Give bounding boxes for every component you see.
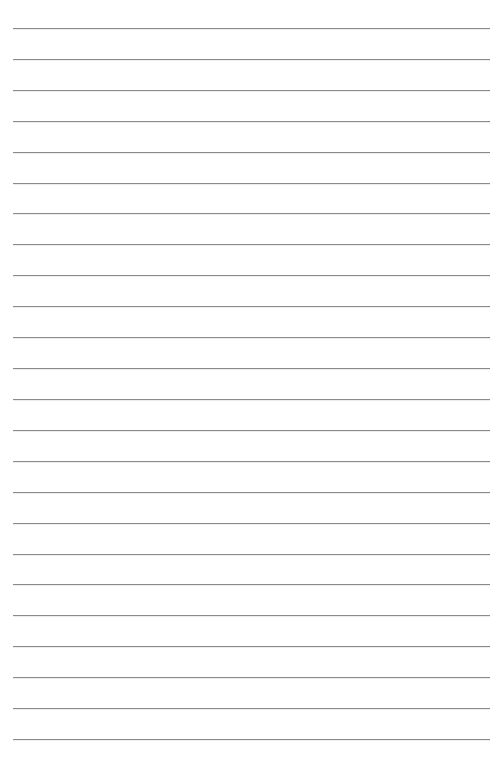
- lined-paper-page: [0, 0, 496, 766]
- ruled-line: [13, 337, 490, 338]
- ruled-line: [13, 121, 490, 122]
- ruled-line: [13, 554, 490, 555]
- ruled-line: [13, 615, 490, 616]
- ruled-line: [13, 152, 490, 153]
- ruled-line: [13, 183, 490, 184]
- ruled-line: [13, 461, 490, 462]
- ruled-line: [13, 59, 490, 60]
- ruled-line: [13, 244, 490, 245]
- ruled-line: [13, 430, 490, 431]
- ruled-line: [13, 492, 490, 493]
- ruled-line: [13, 213, 490, 214]
- ruled-line: [13, 523, 490, 524]
- ruled-line: [13, 584, 490, 585]
- ruled-line: [13, 28, 490, 29]
- ruled-line: [13, 306, 490, 307]
- ruled-line: [13, 739, 490, 740]
- ruled-line: [13, 275, 490, 276]
- ruled-line: [13, 90, 490, 91]
- ruled-line: [13, 646, 490, 647]
- ruled-line: [13, 677, 490, 678]
- ruled-line: [13, 399, 490, 400]
- ruled-line: [13, 368, 490, 369]
- ruled-line: [13, 708, 490, 709]
